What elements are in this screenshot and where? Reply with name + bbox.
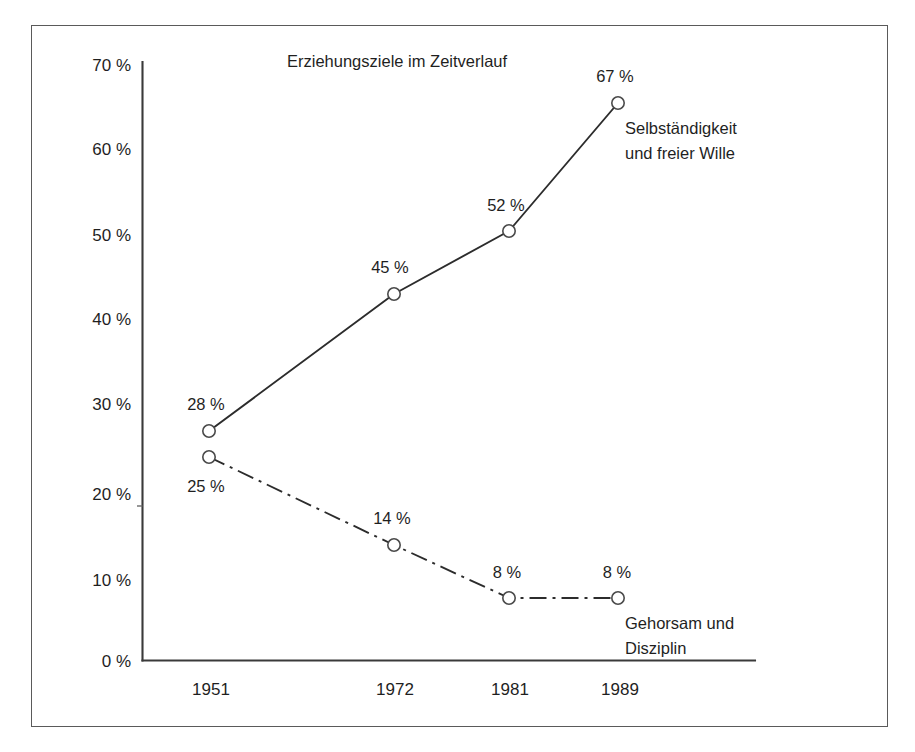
data-point-marker bbox=[503, 592, 515, 604]
data-label: 28 % bbox=[187, 395, 225, 413]
y-tick-label-60: 60 % bbox=[92, 140, 131, 159]
x-tick-label-1989: 1989 bbox=[601, 680, 639, 699]
x-tick-label-1951: 1951 bbox=[192, 680, 230, 699]
y-tick-label-40: 40 % bbox=[92, 310, 131, 329]
data-point-marker bbox=[388, 288, 400, 300]
data-point-marker bbox=[612, 592, 624, 604]
data-label: 25 % bbox=[187, 477, 225, 495]
series-label-selbstaendigkeit-line1: Selbständigkeit bbox=[625, 119, 737, 137]
data-point-marker bbox=[203, 451, 215, 463]
series-selbstaendigkeit: 28 % 45 % 52 % 67 % Selbständigkeit und … bbox=[187, 67, 737, 437]
y-axis-tick-labels: 70 % 60 % 50 % 40 % 30 % 20 % 10 % 0 % bbox=[92, 56, 131, 671]
line-chart: Erziehungsziele im Zeitverlauf 70 % 60 %… bbox=[0, 0, 915, 752]
y-tick-label-10: 10 % bbox=[92, 571, 131, 590]
data-label: 8 % bbox=[603, 563, 632, 581]
data-label: 67 % bbox=[596, 67, 634, 85]
figure-root: Erziehungsziele im Zeitverlauf 70 % 60 %… bbox=[0, 0, 915, 752]
series-gehorsam-line bbox=[209, 457, 618, 598]
data-label: 8 % bbox=[493, 563, 522, 581]
data-point-marker bbox=[203, 425, 215, 437]
y-tick-label-0: 0 % bbox=[102, 652, 131, 671]
x-tick-label-1981: 1981 bbox=[491, 680, 529, 699]
data-point-marker bbox=[503, 225, 515, 237]
y-tick-label-30: 30 % bbox=[92, 395, 131, 414]
y-tick-label-20: 20 % bbox=[92, 485, 131, 504]
x-tick-label-1972: 1972 bbox=[376, 680, 414, 699]
series-label-gehorsam-line2: Disziplin bbox=[625, 639, 686, 657]
series-label-selbstaendigkeit-line2: und freier Wille bbox=[625, 144, 735, 162]
series-gehorsam: 25 % 14 % 8 % 8 % Gehorsam und Disziplin bbox=[187, 451, 734, 657]
series-label-gehorsam-line1: Gehorsam und bbox=[625, 614, 734, 632]
data-label: 45 % bbox=[371, 258, 409, 276]
data-label: 52 % bbox=[487, 196, 525, 214]
data-point-marker bbox=[388, 539, 400, 551]
series-selbstaendigkeit-line bbox=[209, 103, 618, 431]
chart-title: Erziehungsziele im Zeitverlauf bbox=[287, 52, 508, 70]
y-tick-label-70: 70 % bbox=[92, 56, 131, 75]
y-tick-label-50: 50 % bbox=[92, 226, 131, 245]
data-label: 14 % bbox=[373, 509, 411, 527]
x-axis-tick-labels: 1951 1972 1981 1989 bbox=[192, 680, 639, 699]
data-point-marker bbox=[612, 97, 624, 109]
